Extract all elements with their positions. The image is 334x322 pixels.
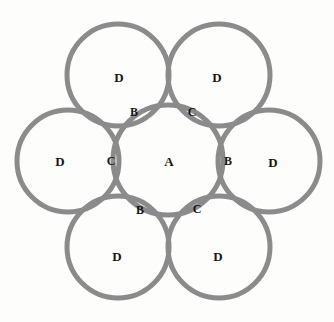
circle-packing-figure: DDDDDDABCCBBC: [0, 0, 334, 322]
label-b-right: B: [224, 155, 232, 167]
label-d-bottom-left: D: [112, 250, 121, 263]
label-d-top-right: D: [212, 71, 221, 84]
circle-d-bottom-right: [168, 196, 270, 298]
label-d-top-left: D: [114, 71, 123, 84]
label-a-center: A: [164, 155, 173, 168]
circle-d-bottom-left: [67, 196, 169, 298]
label-b-top-left: B: [130, 106, 138, 118]
label-c-left: C: [107, 155, 116, 167]
label-d-left: D: [55, 155, 64, 168]
label-d-bottom-right: D: [213, 250, 222, 263]
label-d-right: D: [268, 156, 277, 169]
label-c-top-right: C: [188, 106, 197, 118]
label-b-bottom-left: B: [136, 204, 144, 216]
label-c-bottom-right: C: [193, 203, 202, 215]
